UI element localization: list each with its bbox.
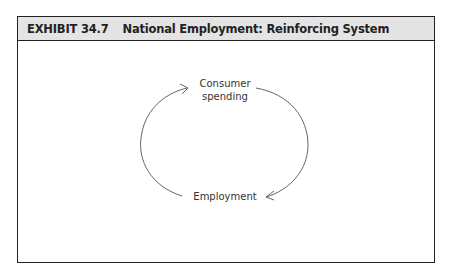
node-label: Employment [190, 190, 260, 203]
node-consumer-spending: Consumer spending [195, 77, 255, 103]
node-label-line1: Consumer [195, 77, 255, 90]
arrow-employment-to-spending [141, 88, 187, 196]
node-label-line2: spending [195, 90, 255, 103]
arrow-spending-to-employment [256, 88, 308, 197]
node-employment: Employment [190, 190, 260, 203]
loop-diagram [0, 0, 450, 279]
